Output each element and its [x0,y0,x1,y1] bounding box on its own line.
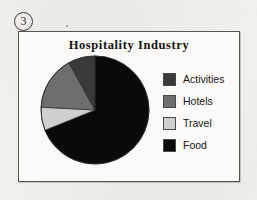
pie-chart [40,55,150,165]
legend-item-travel: Travel [163,112,239,134]
figure-number-label: 3 [14,12,33,31]
paper-speck [66,25,68,27]
legend-swatch-activities [163,73,176,86]
legend-item-hotels: Hotels [163,90,239,112]
legend-swatch-hotels [163,95,176,108]
figure-number-marker: 3 [14,12,33,31]
chart-legend: Activities Hotels Travel Food [163,68,239,156]
chart-frame: Hospitality Industry Activities Hotels T… [18,31,240,182]
pie-chart-svg [40,55,150,165]
pie-slice-group [41,56,149,164]
legend-label-food: Food [183,140,207,151]
chart-title: Hospitality Industry [19,38,239,53]
legend-swatch-travel [163,117,176,130]
legend-item-food: Food [163,134,239,156]
legend-item-activities: Activities [163,68,239,90]
legend-label-hotels: Hotels [183,96,213,107]
legend-swatch-food [163,139,176,152]
legend-label-travel: Travel [183,118,212,129]
legend-label-activities: Activities [183,74,224,85]
